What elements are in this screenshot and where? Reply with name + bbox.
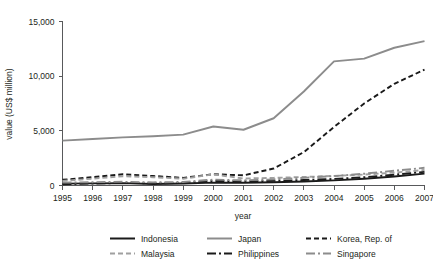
series-line-korea-rep-of xyxy=(63,70,425,180)
y-tick-label: 15,000 xyxy=(29,17,55,27)
legend-item-japan: Japan xyxy=(207,234,306,244)
y-tick-label: 5,000 xyxy=(33,126,55,136)
y-axis-title: value (US$ million) xyxy=(4,68,14,139)
x-tick-label: 2007 xyxy=(415,193,433,203)
legend-swatch-singapore xyxy=(306,249,331,258)
x-tick-label: 1996 xyxy=(83,193,102,203)
x-tick-label: 2000 xyxy=(204,193,223,203)
legend-row: Malaysia Philippines Singapore xyxy=(110,246,400,261)
legend-item-korea: Korea, Rep. of xyxy=(306,234,400,244)
legend-label-malaysia: Malaysia xyxy=(141,249,175,259)
legend-item-philippines: Philippines xyxy=(207,249,306,259)
legend-item-singapore: Singapore xyxy=(306,249,400,259)
x-tick-label: 1995 xyxy=(53,193,72,203)
legend-label-japan: Japan xyxy=(238,234,261,244)
x-tick-label: 2003 xyxy=(294,193,313,203)
legend-row: Indonesia Japan Korea, Rep. of xyxy=(110,231,400,246)
legend-swatch-korea xyxy=(306,234,331,243)
legend-label-singapore: Singapore xyxy=(337,249,376,259)
x-tick-label: 2001 xyxy=(234,193,253,203)
x-tick-label: 2006 xyxy=(385,193,404,203)
x-axis-title: year xyxy=(235,211,252,221)
axes-group xyxy=(63,22,425,186)
y-tick-label: 10,000 xyxy=(29,71,55,81)
legend-swatch-philippines xyxy=(207,249,232,258)
y-tick-label: 0 xyxy=(50,181,55,191)
series-group xyxy=(63,41,425,184)
series-line-singapore xyxy=(63,168,425,183)
legend-item-malaysia: Malaysia xyxy=(110,249,207,259)
legend-swatch-indonesia xyxy=(110,234,135,243)
legend-label-indonesia: Indonesia xyxy=(141,234,178,244)
chart-container: 05,00010,00015,000 199519961997199819992… xyxy=(0,0,433,267)
y-tick-group: 05,00010,00015,000 xyxy=(29,17,63,191)
legend-swatch-malaysia xyxy=(110,249,135,258)
series-line-malaysia xyxy=(63,170,425,181)
legend-swatch-japan xyxy=(207,234,232,243)
x-tick-group: 1995199619971998199920002001200220032004… xyxy=(53,186,433,203)
x-tick-label: 1997 xyxy=(113,193,132,203)
legend-item-indonesia: Indonesia xyxy=(110,234,207,244)
x-tick-label: 2004 xyxy=(325,193,344,203)
legend-label-philippines: Philippines xyxy=(238,249,279,259)
x-tick-label: 2005 xyxy=(355,193,374,203)
chart-legend: Indonesia Japan Korea, Rep. of Malays xyxy=(110,231,400,261)
x-tick-label: 2002 xyxy=(264,193,283,203)
legend-label-korea: Korea, Rep. of xyxy=(337,234,392,244)
x-tick-label: 1998 xyxy=(144,193,163,203)
x-tick-label: 1999 xyxy=(174,193,193,203)
series-line-japan xyxy=(63,41,425,140)
line-chart-plot: 05,00010,00015,000 199519961997199819992… xyxy=(0,0,433,267)
